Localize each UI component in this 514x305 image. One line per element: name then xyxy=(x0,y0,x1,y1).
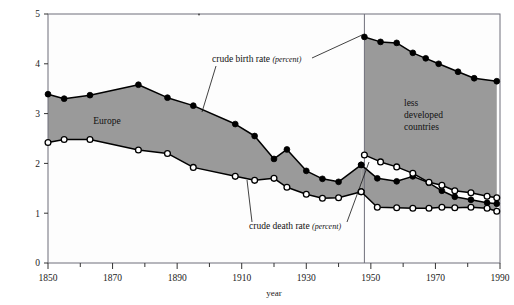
data-point-marker xyxy=(494,208,500,214)
data-point-marker xyxy=(190,103,196,109)
data-point-marker xyxy=(271,175,277,181)
data-point-marker xyxy=(394,164,400,170)
data-point-marker xyxy=(439,182,445,188)
chart-text: 1930 xyxy=(297,273,316,283)
data-point-marker xyxy=(358,162,364,168)
data-point-marker xyxy=(378,159,384,165)
data-point-marker xyxy=(165,95,171,101)
data-point-marker xyxy=(452,194,458,200)
data-point-marker xyxy=(484,193,490,199)
chart-text: 1970 xyxy=(426,273,445,283)
data-point-marker xyxy=(452,205,458,211)
data-point-marker xyxy=(303,191,309,197)
data-point-marker xyxy=(494,201,500,207)
data-point-marker xyxy=(190,164,196,170)
chart-text: 1890 xyxy=(168,273,187,283)
data-point-marker xyxy=(87,137,93,143)
data-point-marker xyxy=(284,147,290,153)
data-point-marker xyxy=(468,190,474,196)
chart-text: 5 xyxy=(35,9,40,19)
data-point-marker xyxy=(452,188,458,194)
data-point-marker xyxy=(45,140,51,146)
europe-region-label: Europe xyxy=(93,116,120,126)
data-point-marker xyxy=(439,204,445,210)
data-point-marker xyxy=(165,151,171,157)
tspan: countries xyxy=(404,122,439,132)
data-point-marker xyxy=(471,75,477,81)
data-point-marker xyxy=(336,195,342,201)
data-point-marker xyxy=(426,179,432,185)
tspan: less xyxy=(404,98,419,108)
data-point-marker xyxy=(198,14,200,16)
data-point-marker xyxy=(436,61,442,67)
chart-text: 1990 xyxy=(491,273,510,283)
data-point-marker xyxy=(394,40,400,46)
tspan: developed xyxy=(404,110,443,120)
data-point-marker xyxy=(320,195,326,201)
chart-text: 1 xyxy=(35,209,40,219)
chart-figure: 01234518501870189019101930195019701990ye… xyxy=(0,0,514,305)
data-point-marker xyxy=(61,137,67,143)
data-point-marker xyxy=(284,184,290,190)
data-point-marker xyxy=(336,179,342,185)
data-point-marker xyxy=(374,175,380,181)
crude-death-rate-label: crude death rate (percent) xyxy=(249,221,341,231)
data-point-marker xyxy=(362,34,368,40)
data-point-marker xyxy=(45,91,51,97)
data-point-marker xyxy=(494,195,500,201)
data-point-marker xyxy=(374,204,380,210)
tspan: (percent) xyxy=(272,55,301,64)
data-point-marker xyxy=(455,69,461,75)
data-point-marker xyxy=(378,39,384,45)
data-point-marker xyxy=(136,147,142,153)
data-point-marker xyxy=(232,173,238,179)
data-point-marker xyxy=(468,197,474,203)
data-point-marker xyxy=(484,205,490,211)
data-point-marker xyxy=(303,168,309,174)
data-point-marker xyxy=(410,50,416,56)
data-point-marker xyxy=(394,178,400,184)
data-point-marker xyxy=(410,205,416,211)
chart-text: 1870 xyxy=(103,273,122,283)
data-point-marker xyxy=(271,156,277,162)
chart-text: 1850 xyxy=(39,273,58,283)
data-point-marker xyxy=(426,205,432,211)
chart-text: 1950 xyxy=(361,273,380,283)
data-point-marker xyxy=(252,177,258,183)
data-point-marker xyxy=(494,78,500,84)
tspan: (percent) xyxy=(312,222,341,231)
chart-text: 0 xyxy=(35,258,40,268)
chart-text: year xyxy=(266,288,282,298)
chart-text: 1910 xyxy=(232,273,251,283)
data-point-marker xyxy=(362,152,368,158)
data-point-marker xyxy=(410,170,416,176)
data-point-marker xyxy=(423,55,429,61)
data-point-marker xyxy=(394,205,400,211)
chart-text: 3 xyxy=(35,109,40,119)
chart-text: 2 xyxy=(35,159,40,169)
data-point-marker xyxy=(468,204,474,210)
data-point-marker xyxy=(61,96,67,102)
data-point-marker xyxy=(136,82,142,88)
crude-birth-rate-label: crude birth rate (percent) xyxy=(212,54,302,64)
data-point-marker xyxy=(252,133,258,139)
data-point-marker xyxy=(87,92,93,98)
data-point-marker xyxy=(320,176,326,182)
chart-text: 4 xyxy=(35,59,40,69)
data-point-marker xyxy=(232,121,238,127)
chart-canvas: 01234518501870189019101930195019701990ye… xyxy=(0,0,514,305)
